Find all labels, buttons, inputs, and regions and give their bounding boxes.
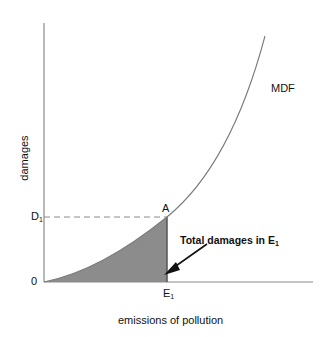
y-axis-label: damages xyxy=(18,128,30,188)
e1-sub: 1 xyxy=(170,293,174,300)
annotation-main: Total damages in E xyxy=(180,234,275,246)
point-a-label: A xyxy=(162,202,169,214)
d1-main: D xyxy=(31,210,39,222)
annotation-arrow-line xyxy=(173,244,207,268)
d1-tick-label: D1 xyxy=(31,210,43,223)
mdf-label: MDF xyxy=(271,82,295,94)
total-damages-area xyxy=(44,217,167,282)
d1-sub: 1 xyxy=(39,216,43,223)
total-damages-annotation: Total damages in E1 xyxy=(180,234,279,247)
x-axis-label: emissions of pollution xyxy=(118,314,223,326)
e1-tick-label: E1 xyxy=(163,287,174,300)
annotation-sub: 1 xyxy=(275,240,279,247)
origin-label: 0 xyxy=(31,275,37,287)
